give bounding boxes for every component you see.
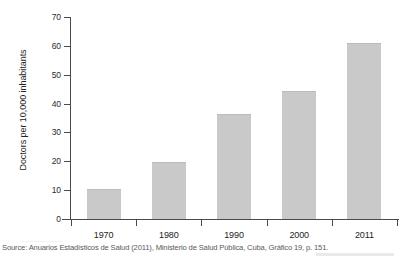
y-axis-tick-label: 20 xyxy=(39,157,61,166)
y-axis-tick-label: 60 xyxy=(39,42,61,51)
x-axis-tick xyxy=(136,220,137,226)
bar-chart-figure: Doctors per 10,000 inhabitants 010203040… xyxy=(0,0,405,260)
x-axis-tick-label: 1990 xyxy=(204,230,264,240)
y-axis-tick-label: 10 xyxy=(39,186,61,195)
y-axis-tick xyxy=(64,132,71,133)
y-axis-tick xyxy=(64,161,71,162)
x-axis-tick-label: 1970 xyxy=(74,230,134,240)
x-axis-tick xyxy=(397,220,398,226)
x-axis-tick xyxy=(332,220,333,226)
y-axis-tick-label: 40 xyxy=(39,100,61,109)
source-note: Source: Anuarios Estadísticos de Salud (… xyxy=(2,243,328,253)
y-axis-title: Doctors per 10,000 inhabitants xyxy=(18,30,28,190)
y-axis-tick-label: 70 xyxy=(39,13,61,22)
bar xyxy=(347,43,381,219)
y-axis-tick-label: 50 xyxy=(39,71,61,80)
x-axis-tick-label: 1980 xyxy=(139,230,199,240)
y-axis-tick xyxy=(64,190,71,191)
x-axis-line xyxy=(62,219,399,220)
scan-artifact xyxy=(316,253,394,256)
bar xyxy=(217,114,251,219)
x-axis-tick-label: 2011 xyxy=(334,230,394,240)
x-axis-tick xyxy=(71,220,72,226)
y-axis-tick xyxy=(64,104,71,105)
y-axis-tick xyxy=(64,46,71,47)
x-axis-tick xyxy=(267,220,268,226)
y-axis-tick xyxy=(64,219,71,220)
y-axis-tick xyxy=(64,17,71,18)
scan-artifact xyxy=(22,241,62,242)
y-axis-tick-label: 0 xyxy=(39,215,61,224)
bar xyxy=(152,162,186,219)
plot-area xyxy=(71,17,397,219)
bar xyxy=(282,91,316,219)
bar xyxy=(87,189,121,219)
x-axis-tick-label: 2000 xyxy=(269,230,329,240)
y-axis-tick xyxy=(64,75,71,76)
x-axis-tick xyxy=(201,220,202,226)
y-axis-tick-label: 30 xyxy=(39,128,61,137)
